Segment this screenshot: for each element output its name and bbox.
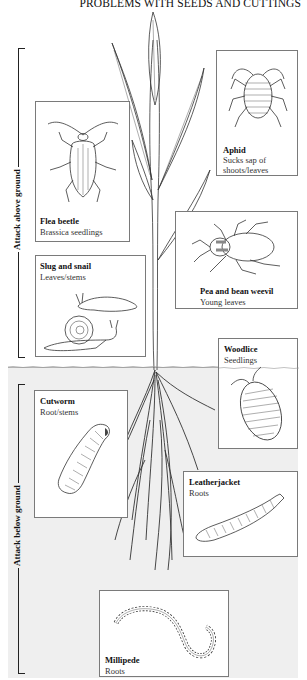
pest-name: Flea beetle xyxy=(40,216,79,226)
pest-damage: Young leaves xyxy=(200,297,246,307)
cutworm-illustration xyxy=(35,391,129,519)
pest-damage-line2: shoots/leaves xyxy=(223,165,268,175)
slug-and-snail-illustration xyxy=(36,256,147,358)
woodlice-illustration xyxy=(219,339,299,450)
below-ground-label: Attack below ground xyxy=(12,483,22,568)
aphid-illustration xyxy=(217,51,299,141)
pest-card-cutworm: Cutworm Root/stems xyxy=(34,390,128,518)
pest-damage: Sucks sap of xyxy=(223,155,266,165)
pest-card-leatherjacket: Leatherjacket Roots xyxy=(183,471,298,557)
pest-name: Aphid xyxy=(223,145,246,155)
flea-beetle-illustration xyxy=(36,102,131,212)
pest-damage: Brassica seedlings xyxy=(40,227,103,237)
pea-and-bean-weevil-illustration xyxy=(176,212,299,282)
pest-card-aphid: Aphid Sucks sap of shoots/leaves xyxy=(216,50,298,176)
pest-card-millipede: Millipede Roots xyxy=(99,590,229,677)
pest-card-woodlice: Woodlice Seedlings xyxy=(218,338,298,449)
pest-card-slug-and-snail: Slug and snail Leaves/stems xyxy=(35,255,146,357)
pest-name: Millipede xyxy=(105,655,139,665)
pest-name: Pea and bean weevil xyxy=(200,286,273,296)
pest-card-pea-and-bean-weevil: Pea and bean weevil Young leaves xyxy=(175,211,298,309)
above-ground-label: Attack above ground xyxy=(12,167,22,252)
pest-card-flea-beetle: Flea beetle Brassica seedlings xyxy=(35,101,130,242)
pest-damage: Roots xyxy=(105,666,125,676)
leatherjacket-illustration xyxy=(184,472,299,558)
